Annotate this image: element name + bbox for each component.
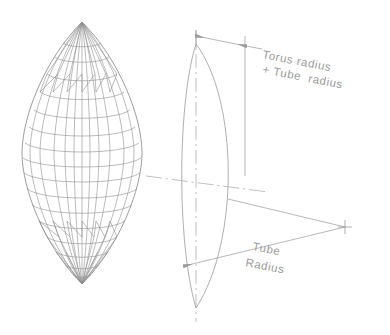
annotation-line-2: Radius: [245, 256, 286, 275]
annotation-line-1: Tube: [252, 240, 282, 257]
cad-drawing-root: Torus radius + Tube radius Tube Radius: [0, 0, 390, 335]
section-profile-outline: [182, 44, 229, 308]
center-crosshair-icon: [338, 220, 352, 234]
overall-radius-dimension: [196, 36, 262, 49]
wireframe-meridians: [30, 22, 134, 284]
annotation-tube-radius: Tube Radius: [245, 240, 286, 275]
tube-radius-dimension: [184, 199, 345, 266]
annotation-torus-plus-tube-radius: Torus radius + Tube radius: [262, 48, 344, 90]
wireframe-facets-lower: [39, 221, 117, 237]
cad-canvas: Torus radius + Tube radius Tube Radius: [0, 0, 390, 335]
wireframe-view: [22, 22, 142, 284]
horizontal-centerline: [146, 176, 268, 192]
